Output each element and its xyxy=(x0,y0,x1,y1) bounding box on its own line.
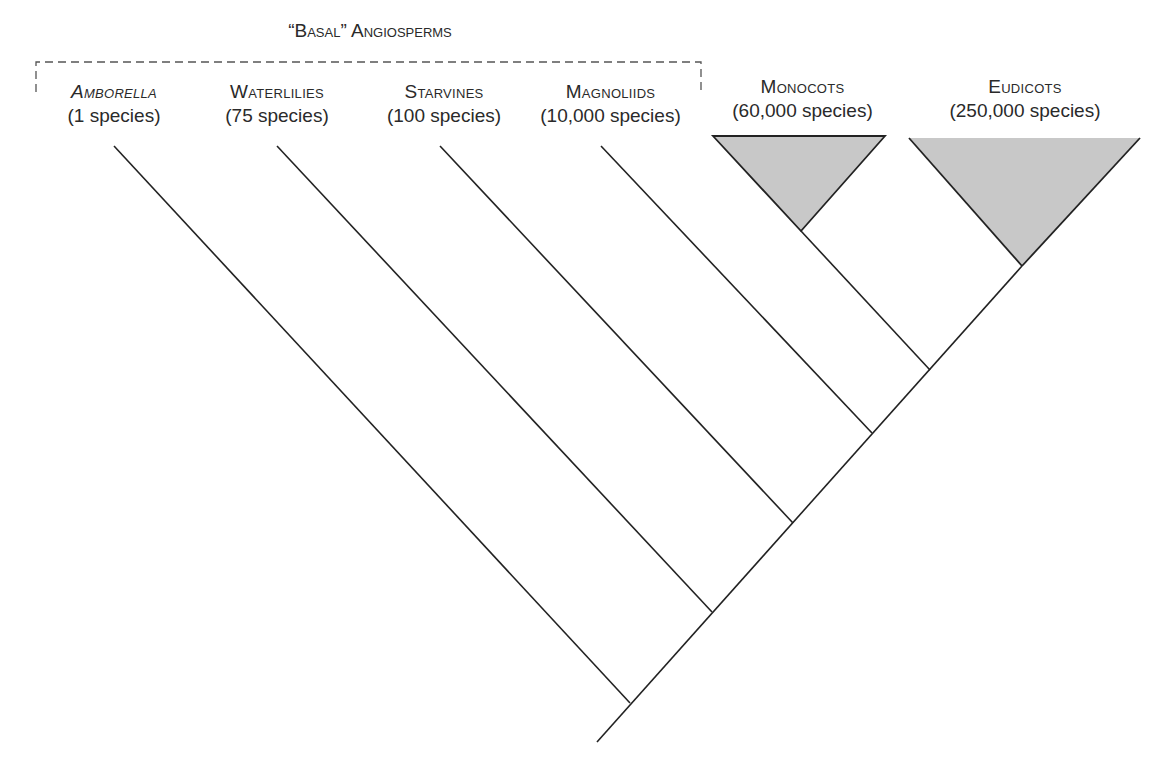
species-count: (250,000 species) xyxy=(930,99,1120,123)
branch-monocots xyxy=(801,231,930,370)
taxon-label-eudicots: Eudicots (250,000 species) xyxy=(930,75,1120,123)
taxon-label-starvines: Starvines (100 species) xyxy=(364,80,524,128)
branch-amborella xyxy=(114,146,630,703)
taxon-label-magnoliids: Magnoliids (10,000 species) xyxy=(523,80,698,128)
taxon-name: Waterlilies xyxy=(197,80,357,104)
species-count: (100 species) xyxy=(364,104,524,128)
branch-waterlilies xyxy=(277,146,712,612)
taxon-label-waterlilies: Waterlilies (75 species) xyxy=(197,80,357,128)
taxon-label-monocots: Monocots (60,000 species) xyxy=(715,75,890,123)
taxon-name: Monocots xyxy=(715,75,890,99)
eudicots-clade-triangle xyxy=(909,138,1140,266)
taxon-name: Amborella xyxy=(34,80,194,104)
species-count: (60,000 species) xyxy=(715,99,890,123)
taxon-name: Magnoliids xyxy=(523,80,698,104)
taxon-name: Starvines xyxy=(364,80,524,104)
taxon-name: Eudicots xyxy=(930,75,1120,99)
species-count: (1 species) xyxy=(34,104,194,128)
species-count: (75 species) xyxy=(197,104,357,128)
species-count: (10,000 species) xyxy=(523,104,698,128)
branch-starvines xyxy=(440,146,793,523)
taxon-label-amborella: Amborella (1 species) xyxy=(34,80,194,128)
monocots-clade-triangle xyxy=(713,136,885,231)
tree-backbone xyxy=(597,266,1022,742)
